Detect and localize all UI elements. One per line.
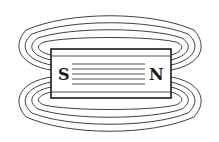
magnet-field-diagram: S N <box>0 0 219 142</box>
bar-magnet: S N <box>51 49 171 98</box>
south-pole-label: S <box>58 65 70 84</box>
north-pole-label: N <box>149 65 164 84</box>
